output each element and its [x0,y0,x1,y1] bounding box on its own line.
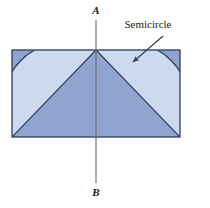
axis-label-a: A [91,4,99,16]
semicircle-callout-label: Semicircle [124,18,171,30]
axis-label-b: B [91,186,99,198]
figure-canvas: A B Semicircle [0,0,210,208]
semicircle-figure: A B Semicircle [0,0,210,208]
